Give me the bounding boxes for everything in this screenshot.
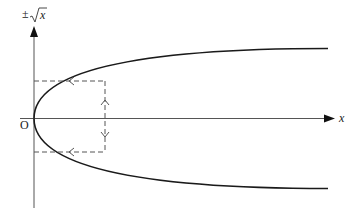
up-arrow-icon [101, 100, 109, 105]
lower-branch-curve [34, 119, 328, 189]
x-axis-label: x [339, 112, 344, 124]
origin-label: O [20, 119, 29, 131]
parabola-diagram [0, 0, 352, 216]
x-axis-arrow-icon [324, 115, 335, 123]
lower-left-arrow-icon [69, 148, 74, 156]
y-axis-arrow-icon [30, 26, 38, 37]
upper-branch-curve [34, 49, 328, 119]
y-axis-label-prefix: ± [22, 8, 29, 20]
y-axis-label-radicand: x [40, 9, 45, 21]
